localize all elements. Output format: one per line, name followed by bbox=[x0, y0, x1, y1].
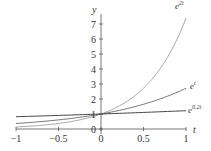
x-tick-label: −0.5 bbox=[49, 133, 67, 144]
curve-label: et bbox=[190, 80, 196, 91]
y-tick-label: 7 bbox=[91, 19, 96, 30]
curve-label: e2t bbox=[175, 0, 184, 11]
y-tick-label: 3 bbox=[91, 79, 96, 90]
y-axis-label: y bbox=[91, 4, 97, 15]
y-tick-label: 4 bbox=[91, 64, 96, 75]
y-tick-label: 6 bbox=[91, 34, 96, 45]
x-ticks: −1−0.500.51 bbox=[11, 127, 189, 144]
x-tick-label: 1 bbox=[184, 133, 189, 144]
x-tick-label: 0.5 bbox=[137, 133, 150, 144]
y-tick-label: 0 bbox=[91, 124, 96, 135]
y-tick-label: 5 bbox=[91, 49, 96, 60]
exponential-chart: −1−0.500.51 01234567 y t e2tete0.2t bbox=[0, 0, 211, 151]
x-tick-label: −1 bbox=[11, 133, 22, 144]
curve-labels: e2tete0.2t bbox=[175, 0, 202, 115]
x-axis-label: t bbox=[193, 124, 196, 135]
curve-label: e0.2t bbox=[188, 104, 202, 115]
y-tick-label: 1 bbox=[91, 109, 96, 120]
x-tick-label: 0 bbox=[99, 133, 104, 144]
y-tick-label: 2 bbox=[91, 94, 96, 105]
